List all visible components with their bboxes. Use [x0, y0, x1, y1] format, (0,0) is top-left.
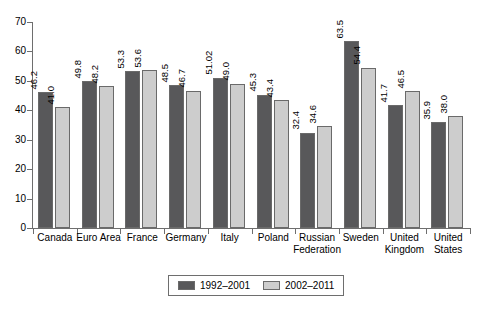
bar: [317, 126, 332, 228]
bar: [344, 41, 359, 228]
bar-value-label: 49.0: [220, 62, 230, 81]
y-axis-tick-mark: [27, 22, 32, 23]
bar-value-label: 53.6: [133, 49, 143, 68]
bar-value-label: 35.9: [422, 101, 432, 120]
bar-value-label: 38.0: [439, 95, 449, 114]
bar-value-label: 46.2: [29, 71, 39, 90]
bar-group: 51.0249.0: [208, 22, 252, 228]
bar-group: 46.241.0: [33, 22, 77, 228]
y-axis-tick-mark: [27, 51, 32, 52]
bar-value-label: 46.5: [395, 70, 405, 89]
bar: [361, 68, 376, 228]
bar-value-label: 63.5: [334, 20, 344, 39]
bar-value-label: 51.02: [203, 51, 213, 75]
y-axis-tick-label: 20: [0, 164, 26, 174]
y-axis-tick-label: 0: [0, 223, 26, 233]
bar: [142, 70, 157, 228]
legend-item-series-2: 2002–2011: [263, 280, 334, 291]
bar: [99, 86, 114, 228]
bar: [257, 95, 272, 228]
y-axis-tick-label: 50: [0, 76, 26, 86]
bar: [82, 81, 97, 228]
y-axis-tick-mark: [27, 169, 32, 170]
legend-item-series-1: 1992–2001: [178, 280, 250, 291]
bar-group: 41.746.5: [383, 22, 427, 228]
bar-value-label: 49.8: [72, 60, 82, 79]
y-axis-tick-label: 40: [0, 105, 26, 115]
y-axis-tick-label: 70: [0, 17, 26, 27]
y-axis-tick-label: 60: [0, 46, 26, 56]
y-axis-tick-mark: [27, 228, 32, 229]
bar-value-label: 48.2: [89, 65, 99, 84]
bar-value-label: 41.0: [46, 86, 56, 105]
bar: [125, 71, 140, 228]
bar: [388, 105, 403, 228]
x-axis-category-labels: CanadaEuro AreaFranceGermanyItalyPolandR…: [33, 232, 470, 272]
bar: [169, 85, 184, 228]
chart-legend: 1992–2001 2002–2011: [168, 275, 344, 296]
bar-value-label: 41.7: [378, 84, 388, 103]
bar-chart: 010203040506070 46.241.049.848.253.353.6…: [0, 0, 481, 311]
x-axis-category-label: United States: [418, 232, 478, 255]
y-axis-tick-mark: [27, 110, 32, 111]
bar: [186, 91, 201, 228]
y-axis-tick-label: 30: [0, 135, 26, 145]
bar: [38, 92, 53, 228]
bar-value-label: 53.3: [116, 50, 126, 69]
bar: [431, 122, 446, 228]
bar-value-label: 32.4: [291, 111, 301, 130]
bar: [405, 91, 420, 228]
bar: [230, 84, 245, 228]
bar-value-label: 34.6: [308, 105, 318, 124]
bar: [213, 78, 228, 228]
bar: [448, 116, 463, 228]
legend-swatch-icon: [263, 281, 280, 290]
bar-value-label: 45.3: [247, 73, 257, 92]
bar-value-label: 48.5: [160, 64, 170, 83]
legend-swatch-icon: [178, 281, 195, 290]
y-axis-tick-mark: [27, 199, 32, 200]
bar: [300, 133, 315, 228]
y-axis-tick-label: 10: [0, 194, 26, 204]
plot-area: 46.241.049.848.253.353.648.546.751.0249.…: [33, 22, 470, 228]
bar: [55, 107, 70, 228]
bar-group: 53.353.6: [120, 22, 164, 228]
y-axis-tick-mark: [27, 140, 32, 141]
legend-label: 2002–2011: [285, 280, 334, 291]
legend-label: 1992–2001: [200, 280, 250, 291]
bar-value-label: 46.7: [177, 69, 187, 88]
bar-group: 63.554.4: [339, 22, 383, 228]
bar-group: 48.546.7: [164, 22, 208, 228]
bar-value-label: 43.4: [264, 79, 274, 98]
bar: [274, 100, 289, 228]
bar-group: 35.938.0: [426, 22, 470, 228]
bar-value-label: 54.4: [351, 46, 361, 65]
bar-group: 32.434.6: [295, 22, 339, 228]
